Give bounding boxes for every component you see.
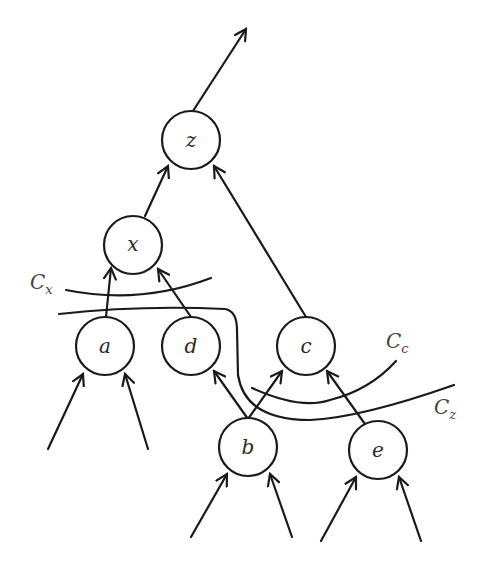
node-label-e: e xyxy=(372,438,384,462)
node-label-z: z xyxy=(185,128,197,152)
edge-input-e-right xyxy=(399,477,421,541)
edge-input-b-right xyxy=(270,474,292,537)
edge-d-x xyxy=(158,269,191,317)
node-label-b: b xyxy=(242,435,255,459)
node-d: d xyxy=(162,317,220,375)
edge-input-a-right xyxy=(125,374,148,449)
node-label-x: x xyxy=(127,232,138,256)
node-label-d: d xyxy=(185,334,198,358)
node-label-a: a xyxy=(99,334,111,358)
edge-c-z xyxy=(214,166,306,317)
edge-x-z xyxy=(145,166,168,216)
node-label-c: c xyxy=(300,334,311,358)
tree-diagram: Cx Cc Cz z x a d c b e xyxy=(0,0,481,567)
node-c: c xyxy=(277,317,335,375)
edge-z-output xyxy=(193,29,246,111)
cut-label-cz: Cz xyxy=(434,395,456,422)
cut-label-cc: Cc xyxy=(386,329,409,356)
node-x: x xyxy=(104,216,162,274)
node-a: a xyxy=(76,317,134,375)
node-b: b xyxy=(219,418,277,476)
node-e: e xyxy=(349,421,407,479)
cut-label-cx: Cx xyxy=(30,270,53,297)
edge-b-d xyxy=(214,371,248,419)
node-z: z xyxy=(162,111,220,169)
cut-cx xyxy=(66,278,211,295)
edge-input-e-left xyxy=(321,477,356,541)
edge-input-b-left xyxy=(191,474,227,537)
edge-input-a-left xyxy=(48,374,83,449)
